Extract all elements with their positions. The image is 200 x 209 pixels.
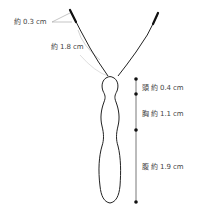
label-abdomen: 腹 約 1.9 cm	[142, 163, 183, 171]
measure-dot-bottom	[134, 200, 138, 204]
label-antenna-tip: 約 0.3 cm	[14, 18, 46, 26]
measure-dot-top	[134, 77, 138, 81]
right-antenna-tip	[153, 13, 158, 24]
measure-dot-thorax-abdomen	[134, 128, 138, 132]
label-head: 頭 約 0.4 cm	[142, 84, 183, 92]
right-antenna	[118, 16, 157, 76]
measure-dot-head-thorax	[134, 92, 138, 96]
body-outline	[99, 77, 121, 203]
insect-diagram	[0, 0, 200, 209]
label-antenna-length: 約 1.8 cm	[51, 43, 83, 51]
left-antenna-tip	[70, 10, 76, 22]
leader-antenna-tip-1	[52, 12, 72, 22]
label-thorax: 胸 約 1.1 cm	[142, 110, 183, 118]
leader-antenna-length-2	[80, 55, 108, 76]
